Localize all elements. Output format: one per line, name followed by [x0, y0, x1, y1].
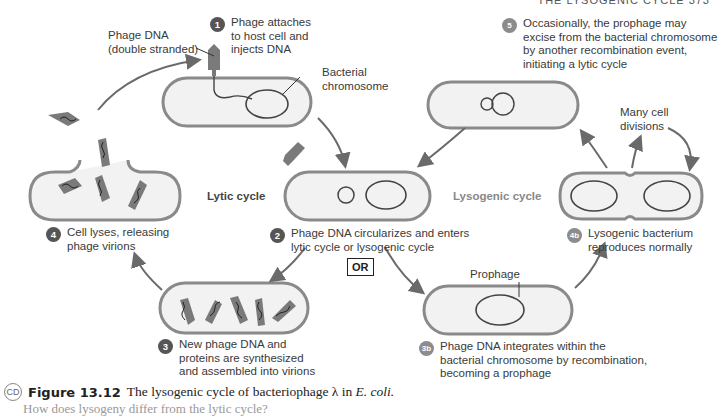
- cd-icon: CD: [4, 383, 22, 401]
- step-badge: 1: [210, 17, 225, 32]
- many-divisions-label: Many cell divisions: [620, 106, 669, 133]
- cell-step5: [428, 82, 578, 128]
- lytic-cycle-label: Lytic cycle: [207, 190, 265, 202]
- step-4b: 4b Lysogenic bacterium reproduces normal…: [567, 227, 693, 254]
- step-2: 2 Phage DNA circularizes and enters lyti…: [270, 227, 469, 254]
- page-header: THE LYSOGENIC CYCLE 373: [537, 0, 710, 6]
- cell-step4-lysing: [30, 112, 180, 220]
- step-badge: 2: [270, 228, 285, 243]
- figure-question: How does lysogeny differ from the lytic …: [23, 401, 268, 417]
- step-badge: 3b: [419, 341, 434, 356]
- step-1: 1 Phage attaches to host cell and inject…: [210, 16, 311, 57]
- step-badge: 4: [46, 227, 61, 242]
- step-badge: 3: [158, 339, 173, 354]
- step-3: 3 New phage DNA and proteins are synthes…: [158, 338, 315, 379]
- free-phage: [283, 142, 305, 166]
- step-4: 4 Cell lyses, releasing phage virions: [46, 226, 169, 253]
- lysogenic-cycle-label: Lysogenic cycle: [453, 190, 541, 202]
- bacterial-chromosome-label: Bacterial chromosome: [322, 66, 388, 93]
- or-box: OR: [347, 258, 374, 276]
- step-badge: 4b: [567, 228, 582, 243]
- cell-step4b-dividing: [560, 173, 702, 219]
- phage-dna-label: Phage DNA (double stranded): [108, 29, 198, 56]
- prophage-label: Prophage: [470, 268, 520, 282]
- step-3b: 3b Phage DNA integrates within the bacte…: [419, 340, 647, 381]
- figure-title: The lysogenic cycle of bacteriophage λ i…: [127, 384, 394, 400]
- cell-step3: [160, 283, 308, 333]
- step-badge: 5: [502, 18, 517, 33]
- figure-number: Figure 13.12: [28, 385, 121, 400]
- cell-step3b: [424, 282, 572, 334]
- figure-caption: CD Figure 13.12 The lysogenic cycle of b…: [4, 383, 394, 401]
- cell-step2: [285, 172, 430, 220]
- step-5: 5 Occasionally, the prophage may excise …: [502, 17, 717, 71]
